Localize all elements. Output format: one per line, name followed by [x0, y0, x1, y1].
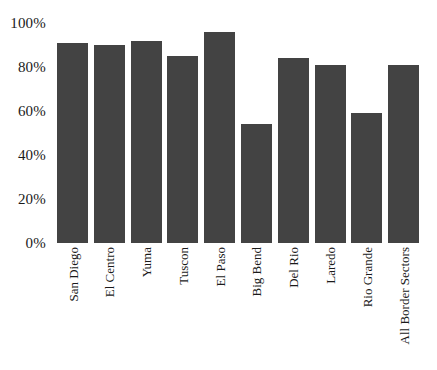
x-tick-label: El Paso [213, 247, 226, 286]
bar[interactable] [57, 43, 88, 243]
y-tick-label: 0% [26, 236, 46, 251]
bar-slot [57, 23, 94, 243]
bar-slot [167, 23, 204, 243]
bar-slot [351, 23, 388, 243]
bar[interactable] [241, 124, 272, 243]
bar-slot [388, 23, 425, 243]
x-tick-label: Yuma [140, 247, 153, 277]
bar-slot [315, 23, 352, 243]
x-tick-slot: Tuscon [167, 247, 204, 367]
bar[interactable] [131, 41, 162, 243]
x-tick-label: San Diego [66, 247, 79, 302]
bar[interactable] [351, 113, 382, 243]
x-tick-slot: Rio Grande [351, 247, 388, 367]
bar[interactable] [388, 65, 419, 243]
x-axis: San DiegoEl CentroYumaTusconEl PasoBig B… [53, 247, 425, 367]
x-tick-label: El Centro [103, 247, 116, 297]
x-tick-slot: Del Rio [278, 247, 315, 367]
bar-slot [278, 23, 315, 243]
x-tick-slot: San Diego [57, 247, 94, 367]
y-axis: 0%20%40%60%80%100% [0, 0, 52, 370]
bar-slot [241, 23, 278, 243]
bar-chart: 0%20%40%60%80%100% San DiegoEl CentroYum… [0, 0, 437, 370]
y-tick-label: 20% [18, 192, 46, 207]
x-tick-label: Rio Grande [360, 247, 373, 307]
x-tick-label: Tuscon [176, 247, 189, 285]
bar-slot [131, 23, 168, 243]
x-tick-label: Laredo [324, 247, 337, 284]
y-tick-label: 60% [18, 104, 46, 119]
x-tick-label: All Border Sectors [397, 247, 410, 344]
x-tick-slot: Big Bend [241, 247, 278, 367]
plot-area [53, 23, 425, 243]
x-tick-slot: All Border Sectors [388, 247, 425, 367]
x-tick-slot: Yuma [131, 247, 168, 367]
x-tick-slot: El Centro [94, 247, 131, 367]
y-tick-label: 100% [10, 16, 46, 31]
bar[interactable] [94, 45, 125, 243]
bar-slot [94, 23, 131, 243]
bar[interactable] [278, 58, 309, 243]
bar[interactable] [204, 32, 235, 243]
x-tick-slot: Laredo [315, 247, 352, 367]
bars-layer [53, 23, 425, 243]
bar[interactable] [315, 65, 346, 243]
x-tick-label: Del Rio [287, 247, 300, 288]
y-tick-label: 40% [18, 148, 46, 163]
bar[interactable] [167, 56, 198, 243]
bar-slot [204, 23, 241, 243]
x-tick-slot: El Paso [204, 247, 241, 367]
x-tick-label: Big Bend [250, 247, 263, 296]
y-tick-label: 80% [18, 60, 46, 75]
